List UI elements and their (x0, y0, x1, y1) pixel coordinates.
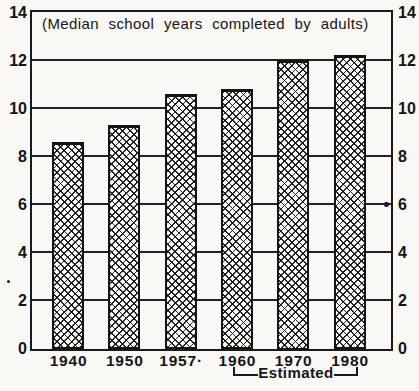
y-tick-left-8: 8 (0, 148, 27, 166)
bar-1957 (165, 94, 197, 350)
bracket-left-line (233, 367, 258, 376)
estimated-bracket: Estimated (233, 367, 358, 376)
y-tick-left-2: 2 (0, 292, 27, 310)
bar-1970 (277, 60, 309, 350)
x-label-1940: 1940 (37, 352, 101, 370)
bar-1940 (52, 142, 84, 350)
estimated-label: Estimated (258, 365, 333, 376)
y-tick-left-0: 0 (0, 340, 27, 358)
y-tick-left-4: 4 (0, 244, 27, 262)
y-tick-right-14: 14 (398, 4, 419, 22)
x-label-1957: 1957· (149, 352, 213, 370)
bracket-right-line (334, 367, 358, 376)
bar-1960 (221, 89, 253, 350)
y-tick-right-6: 6 (398, 196, 419, 214)
y-tick-right-10: 10 (398, 100, 419, 118)
y-tick-left-10: 10 (0, 100, 27, 118)
bar-1980 (334, 55, 366, 349)
chart-title: (Median school years completed by adults… (42, 15, 369, 32)
print-speck-left-margin (7, 280, 10, 283)
y-tick-left-14: 14 (0, 4, 27, 22)
y-tick-right-8: 8 (398, 148, 419, 166)
y-tick-left-6: 6 (0, 196, 27, 214)
y-tick-right-12: 12 (398, 52, 419, 70)
plot-area: (Median school years completed by adults… (30, 10, 393, 351)
y-tick-right-0: 0 (398, 340, 419, 358)
x-label-1950: 1950 (93, 352, 157, 370)
chart-canvas: (Median school years completed by adults… (0, 0, 419, 391)
y-tick-right-4: 4 (398, 244, 419, 262)
bar-1950 (108, 125, 140, 350)
y-tick-left-12: 12 (0, 52, 27, 70)
print-speck-right-axis (384, 202, 389, 207)
y-tick-right-2: 2 (398, 292, 419, 310)
